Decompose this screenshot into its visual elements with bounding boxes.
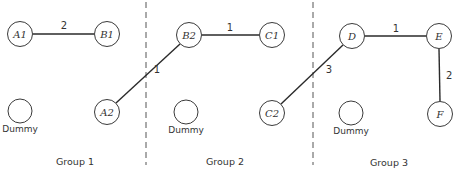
node-label: B1: [99, 29, 114, 40]
node-b1: B1: [95, 22, 120, 47]
edge-weight-d-e: 1: [393, 23, 399, 34]
dummy-label: Dummy: [333, 126, 369, 136]
edge-weight-b2-c1: 1: [227, 22, 233, 33]
node-label: C1: [265, 30, 279, 41]
node-c1: C1: [260, 23, 285, 48]
node-label: D: [347, 31, 356, 42]
group-label-3: Group 3: [370, 157, 408, 168]
node-label: A2: [99, 107, 114, 118]
edge-a2-b2: [116, 44, 180, 103]
node-a2: A2: [95, 100, 120, 125]
edge-weight-a2-b2: 1: [154, 64, 160, 75]
node-label: F: [436, 109, 445, 120]
group-label-1: Group 1: [56, 156, 94, 167]
edge-weight-e-f: 2: [446, 70, 452, 81]
node-label: E: [434, 31, 443, 42]
node-f: F: [428, 102, 453, 127]
dummy-node-1: Dummy: [2, 99, 38, 134]
node-label: C2: [265, 108, 279, 119]
dummy-label: Dummy: [2, 124, 38, 134]
node-label: B2: [181, 30, 196, 41]
node-a1: A1: [8, 22, 33, 47]
edge-weight-c2-d: 3: [326, 64, 332, 75]
node-label: A1: [12, 29, 27, 40]
node-e: E: [427, 24, 452, 49]
edge-e-f: [439, 49, 440, 101]
node-d: D: [340, 24, 365, 49]
dummy-label: Dummy: [168, 125, 204, 135]
node-c2: C2: [260, 101, 285, 126]
group-label-2: Group 2: [206, 156, 244, 167]
graph-diagram: 2 1 1 3 1 2 A1 B1 A2 B2 C1 C2 D E: [0, 0, 456, 173]
node-b2: B2: [177, 23, 202, 48]
dummy-node-2: Dummy: [168, 100, 204, 135]
edge-c2-d: [281, 45, 343, 104]
edge-weight-a1-b1: 2: [61, 20, 67, 31]
dummy-node-3: Dummy: [333, 101, 369, 136]
